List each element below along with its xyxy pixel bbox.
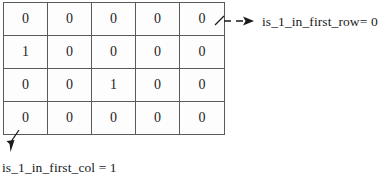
matrix-cell-r2c2: 1 (92, 69, 136, 102)
matrix-cell-r2c1: 0 (48, 69, 92, 102)
matrix-cell-r2c0: 0 (4, 69, 48, 102)
matrix-cell-r3c3: 0 (136, 102, 180, 135)
binary-matrix: 0 0 0 0 0 1 0 0 0 0 0 0 1 0 0 0 (3, 2, 225, 135)
matrix-cell-r2c3: 0 (136, 69, 180, 102)
matrix-cell-r1c1: 0 (48, 36, 92, 69)
matrix-cell-r1c3: 0 (136, 36, 180, 69)
row-annot-arrowhead-icon (243, 17, 254, 26)
first-col-annotation-label: is_1_in_first_col = 1 (2, 160, 117, 174)
matrix-annotation-diagram: 0 0 0 0 0 1 0 0 0 0 0 0 1 0 0 0 (0, 0, 383, 174)
matrix-cell-r0c0: 0 (4, 3, 48, 36)
matrix-body: 0 0 0 0 0 1 0 0 0 0 0 0 1 0 0 0 (4, 3, 225, 135)
matrix-cell-r3c4: 0 (180, 102, 225, 135)
matrix-cell-r1c0: 1 (4, 36, 48, 69)
matrix-cell-r0c3: 0 (136, 3, 180, 36)
matrix-cell-r0c2: 0 (92, 3, 136, 36)
matrix-cell-r0c1: 0 (48, 3, 92, 36)
matrix-cell-r3c0: 0 (4, 102, 48, 135)
matrix-cell-r1c4: 0 (180, 36, 225, 69)
first-row-annotation-label: is_1_in_first_row= 0 (262, 14, 378, 30)
table-row: 0 0 0 0 0 (4, 3, 225, 36)
table-row: 0 0 0 0 0 (4, 102, 225, 135)
matrix-cell-r3c2: 0 (92, 102, 136, 135)
matrix-cell-r2c4: 0 (180, 69, 225, 102)
matrix-cell-r0c4: 0 (180, 3, 225, 36)
table-row: 0 0 1 0 0 (4, 69, 225, 102)
matrix-cell-r3c1: 0 (48, 102, 92, 135)
table-row: 1 0 0 0 0 (4, 36, 225, 69)
col-annot-arrowhead-icon (7, 140, 15, 152)
matrix-cell-r1c2: 0 (92, 36, 136, 69)
